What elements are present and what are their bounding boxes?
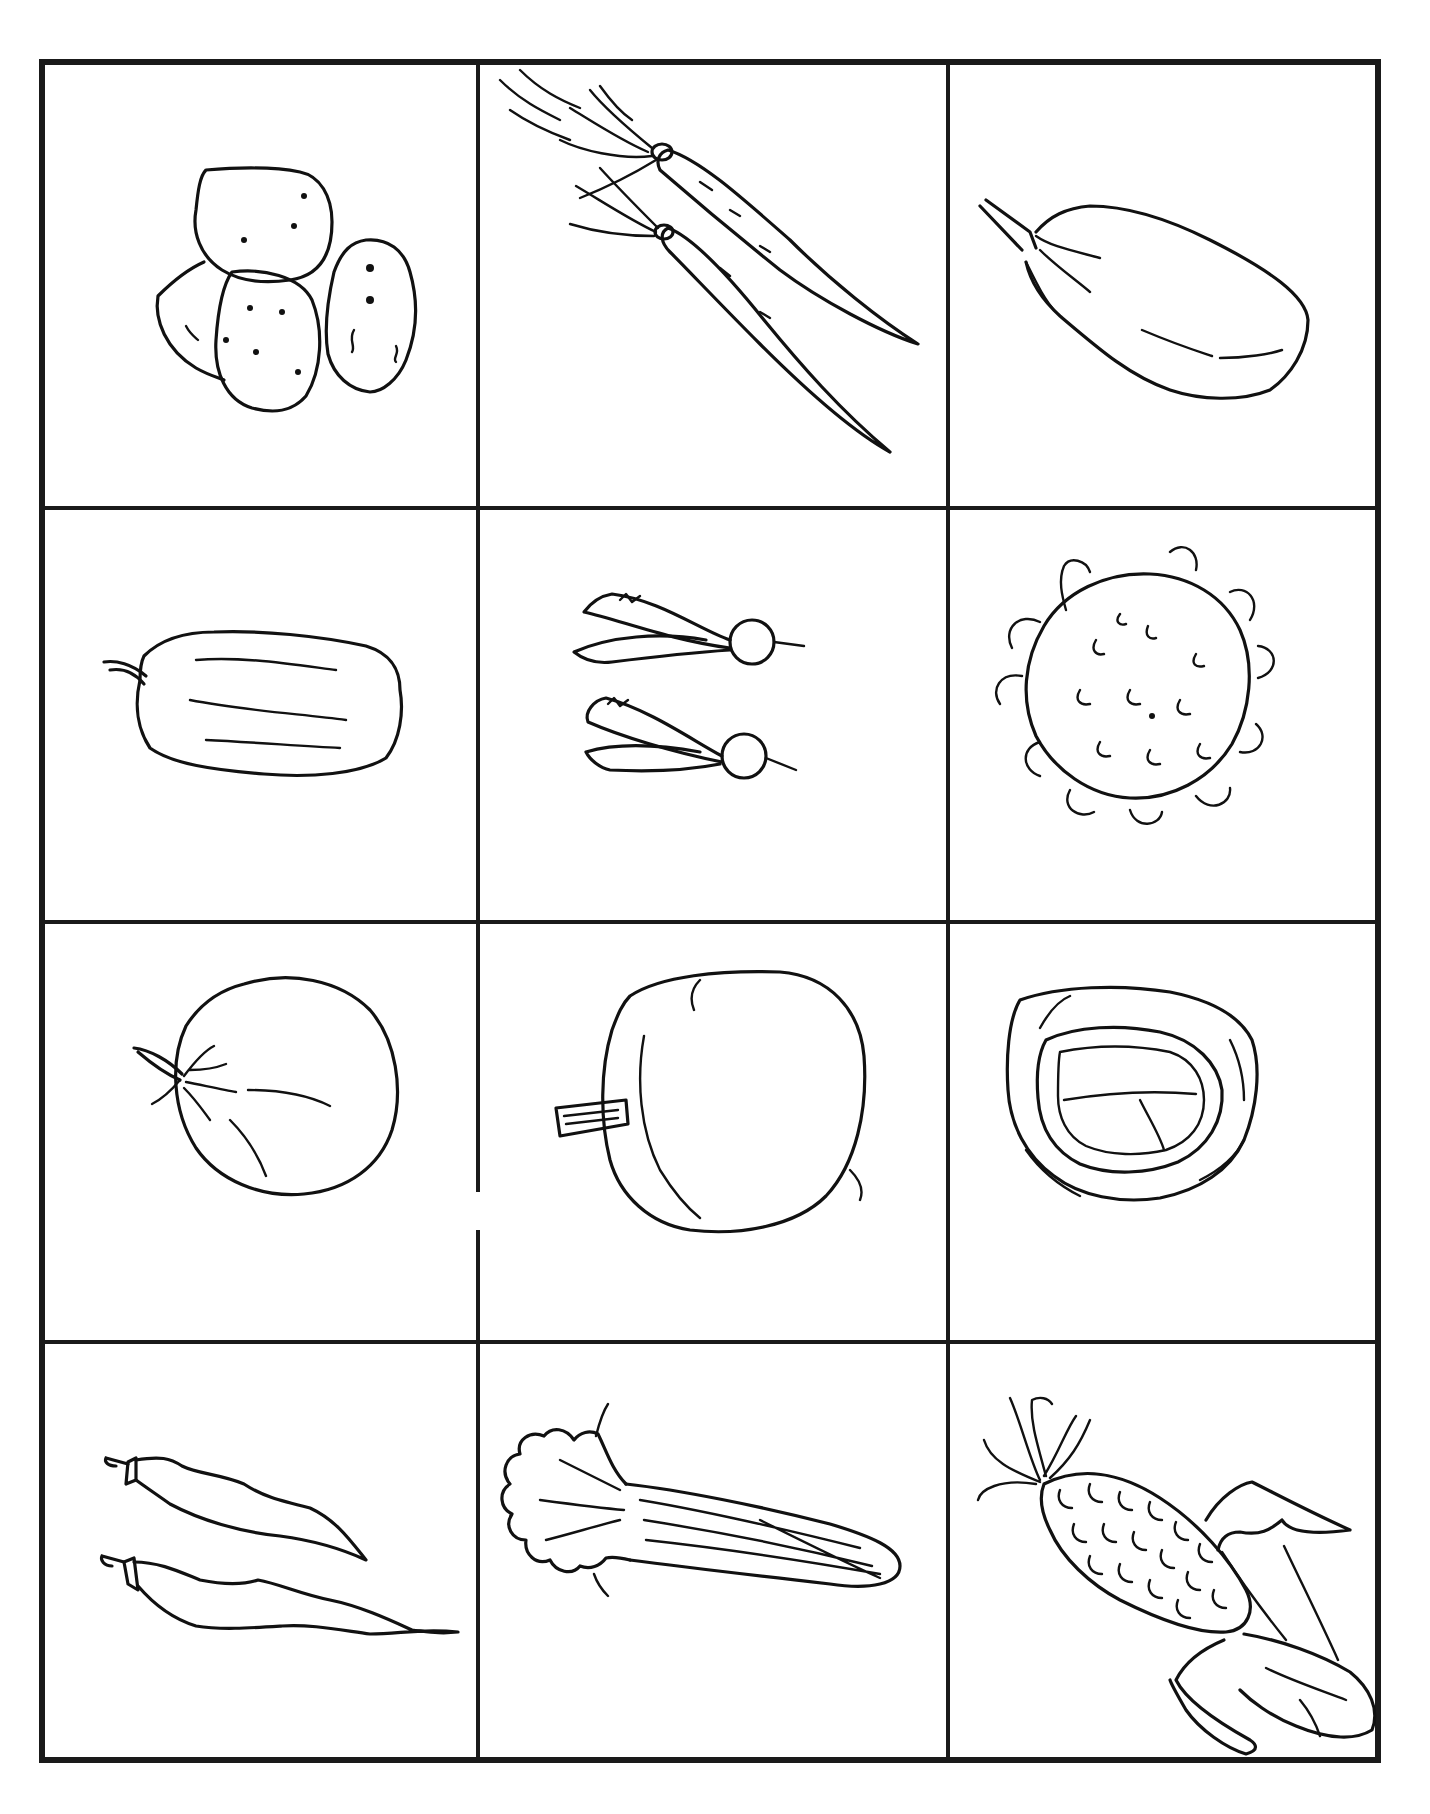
vegetable-worksheet: Potatoes Carrots Eggplant Bell pepper Ra… [0,0,1430,1814]
tomato-icon [134,978,397,1195]
pumpkin-icon [556,972,865,1232]
potatoes-icon [157,168,415,411]
corn-icon [978,1398,1375,1754]
carrots-icon [500,70,918,452]
bell-pepper-icon [104,632,401,776]
green-beans-icon [101,1458,458,1634]
eggplant-icon [980,200,1308,398]
celery-icon [502,1404,900,1596]
grid-lines [42,62,1378,1760]
cauliflower-icon [996,547,1274,824]
outer-border [42,62,1378,1760]
cabbage-icon [1007,987,1257,1200]
radishes-icon [574,594,804,778]
